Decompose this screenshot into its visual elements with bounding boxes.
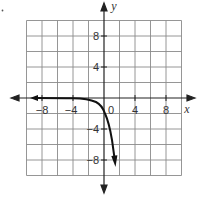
y-axis-label: y xyxy=(110,0,117,13)
y-tick-label: −8 xyxy=(86,154,99,166)
y-tick-label: −4 xyxy=(86,123,99,135)
curve-end-arrow-icon xyxy=(111,155,117,167)
y-axis-up-arrow-icon xyxy=(101,3,107,11)
x-axis-label: x xyxy=(183,102,190,116)
origin-label: 0 xyxy=(108,104,114,116)
x-axis-left-arrow-icon xyxy=(11,95,19,101)
x-tick-label: 8 xyxy=(163,104,169,116)
x-tick-label: 4 xyxy=(132,104,138,116)
curve-start-arrow-icon xyxy=(30,95,38,101)
y-tick-label: 8 xyxy=(93,30,99,42)
coordinate-plane: −8 −4 0 4 8 8 4 −4 −8 x y xyxy=(0,0,200,202)
x-axis-right-arrow-icon xyxy=(187,95,195,101)
y-tick-label: 4 xyxy=(93,61,99,73)
x-tick-label: −8 xyxy=(36,104,49,116)
x-tick-label: −4 xyxy=(65,104,78,116)
stray-dot xyxy=(2,10,4,12)
y-axis-down-arrow-icon xyxy=(101,185,107,193)
